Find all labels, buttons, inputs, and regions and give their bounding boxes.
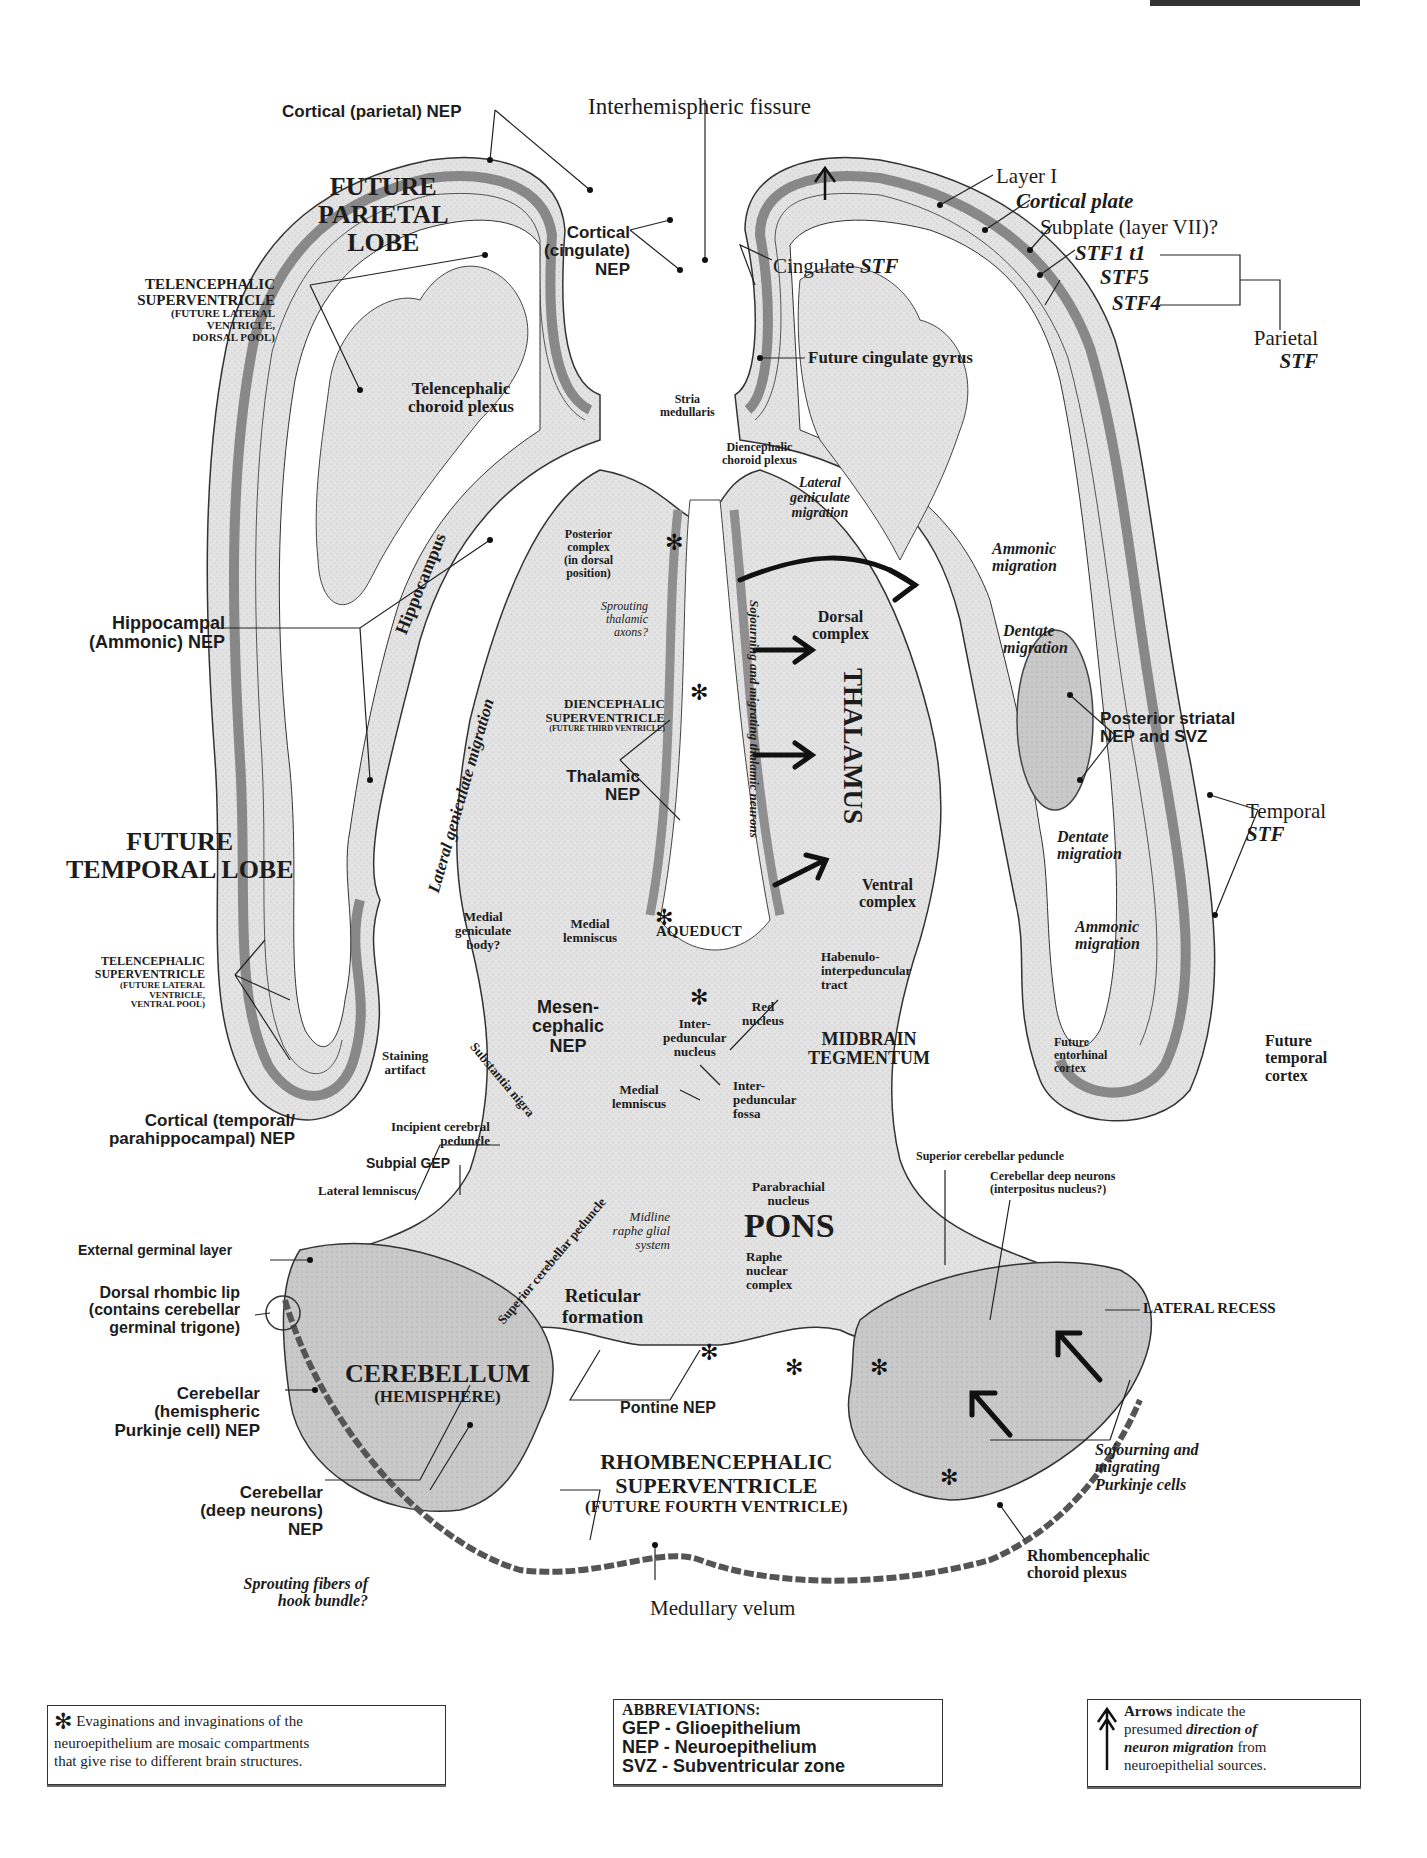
legend-arrows: Arrows indicate the presumed direction o… xyxy=(1087,1699,1361,1787)
label-future-temporal-lobe: FUTURE TEMPORAL LOBE xyxy=(66,828,294,884)
label-medial-geniculate-body: Medial geniculate body? xyxy=(455,910,511,952)
label-ammonic-migration-lower: Ammonic migration xyxy=(1075,918,1140,953)
label-sojourning-thalamic: Sojourning and migrating thalamic neuron… xyxy=(747,600,761,838)
label-dorsal-rhombic-lip: Dorsal rhombic lip (contains cerebellar … xyxy=(30,1284,240,1336)
label-staining-artifact: Staining artifact xyxy=(382,1049,428,1077)
label-telencephalic-choroid-plexus: Telencephalic choroid plexus xyxy=(408,380,514,417)
label-telencephalic-superventricle-ventral: TELENCEPHALIC SUPERVENTRICLE (FUTURE LAT… xyxy=(65,955,205,1010)
label-hippocampal-nep: Hippocampal (Ammonic) NEP xyxy=(60,614,225,653)
label-dentate-migration-lower: Dentate migration xyxy=(1057,828,1122,863)
asterisk-compartment-icon: ✻ xyxy=(54,1709,72,1734)
posterior-striatal-oval xyxy=(1017,630,1093,810)
label-ventral-complex: Ventral complex xyxy=(859,876,916,911)
label-future-cingulate-gyrus: Future cingulate gyrus xyxy=(808,349,973,367)
label-interpeduncular-nucleus: Inter- peduncular nucleus xyxy=(663,1017,727,1059)
label-cortical-temporal-nep: Cortical (temporal/ parahippocampal) NEP xyxy=(75,1112,295,1149)
label-sprouting-thalamic-axons: Sprouting thalamic axons? xyxy=(562,600,648,639)
label-pons: PONS xyxy=(744,1208,835,1245)
label-thalamic-nep: Thalamic NEP xyxy=(540,768,640,805)
label-sojourning-purkinje: Sojourning and migrating Purkinje cells xyxy=(1095,1441,1199,1493)
svg-text:✻: ✻ xyxy=(690,680,708,705)
label-stf5: STF5 xyxy=(1100,266,1149,289)
label-diencephalic-superventricle: DIENCEPHALIC SUPERVENTRICLE (FUTURE THIR… xyxy=(480,697,665,734)
migration-arrow-icon xyxy=(1096,1706,1118,1772)
label-cerebellar-purkinje-nep: Cerebellar (hemispheric Purkinje cell) N… xyxy=(60,1385,260,1440)
svg-text:✻: ✻ xyxy=(785,1355,803,1380)
label-medullary-velum: Medullary velum xyxy=(650,1597,795,1620)
label-aqueduct: AQUEDUCT xyxy=(656,923,742,939)
label-interpeduncular-fossa: Inter- peduncular fossa xyxy=(733,1079,797,1121)
label-posterior-complex: Posterior complex (in dorsal position) xyxy=(564,528,613,580)
label-future-entorhinal-cortex: Future entorhinal cortex xyxy=(1054,1036,1107,1075)
label-external-germinal-layer: External germinal layer xyxy=(78,1243,232,1258)
label-cerebellar-deep-neurons: Cerebellar deep neurons (interpositus nu… xyxy=(990,1170,1115,1196)
label-future-temporal-cortex: Future temporal cortex xyxy=(1265,1032,1327,1084)
svg-text:✻: ✻ xyxy=(940,1465,958,1490)
label-reticular-formation: Reticular formation xyxy=(562,1286,643,1327)
label-rhombencephalic-choroid-plexus: Rhombencephalic choroid plexus xyxy=(1027,1547,1150,1582)
label-temporal-stf: Temporal STF xyxy=(1246,800,1326,845)
label-midline-raphe: Midline raphe glial system xyxy=(590,1210,670,1252)
label-sprouting-hook-bundle: Sprouting fibers of hook bundle? xyxy=(190,1575,368,1610)
label-thalamus: THALAMUS xyxy=(838,668,867,824)
label-mesencephalic-nep: Mesen- cephalic NEP xyxy=(532,998,604,1056)
label-subpial-gep: Subpial GEP xyxy=(366,1156,450,1171)
legend-asterisk: ✻ Evaginations and invaginations of the … xyxy=(47,1705,446,1785)
label-subplate: Subplate (layer VII)? xyxy=(1040,216,1218,239)
label-parietal-stf: Parietal STF xyxy=(1220,327,1318,372)
label-cortical-cingulate-nep: Cortical (cingulate) NEP xyxy=(510,224,630,279)
legend-abbreviations: ABBREVIATIONS: GEP - Glioepithelium NEP … xyxy=(613,1699,943,1785)
label-lateral-lemniscus: Lateral lemniscus xyxy=(318,1184,417,1198)
label-stf1: STF1 t1 xyxy=(1075,242,1146,265)
label-raphe-nuclear-complex: Raphe nuclear complex xyxy=(746,1250,792,1292)
label-posterior-striatal: Posterior striatal NEP and SVZ xyxy=(1100,710,1235,747)
label-red-nucleus: Red nucleus xyxy=(742,1000,784,1028)
label-dorsal-complex: Dorsal complex xyxy=(812,608,869,643)
label-ammonic-migration-upper: Ammonic migration xyxy=(992,540,1057,575)
label-rhombencephalic-superventricle: RHOMBENCEPHALIC SUPERVENTRICLE (FUTURE F… xyxy=(585,1450,848,1516)
label-interhemispheric-fissure: Interhemispheric fissure xyxy=(588,95,811,120)
svg-text:✻: ✻ xyxy=(870,1355,888,1380)
svg-text:✻: ✻ xyxy=(700,1340,718,1365)
label-superior-cerebellar-peduncle-right: Superior cerebellar peduncle xyxy=(916,1150,1064,1163)
label-lateral-geniculate-migration: Lateral geniculate migration xyxy=(790,475,850,520)
label-pontine-nep: Pontine NEP xyxy=(620,1399,716,1416)
label-incipient-cerebral-peduncle: Incipient cerebral peduncle xyxy=(360,1120,490,1148)
label-medial-lemniscus-upper: Medial lemniscus xyxy=(563,917,617,945)
label-stf4: STF4 xyxy=(1112,292,1161,315)
label-cerebellum: CEREBELLUM (HEMISPHERE) xyxy=(345,1360,530,1406)
label-cingulate-stf: Cingulate STF xyxy=(773,255,898,278)
label-lateral-recess: LATERAL RECESS xyxy=(1143,1300,1276,1316)
label-telencephalic-superventricle-dorsal: TELENCEPHALIC SUPERVENTRICLE (FUTURE LAT… xyxy=(80,276,275,344)
label-future-parietal-lobe: FUTURE PARIETAL LOBE xyxy=(318,173,449,257)
svg-text:✻: ✻ xyxy=(690,985,708,1010)
label-cortical-parietal-nep: Cortical (parietal) NEP xyxy=(282,103,462,121)
svg-text:✻: ✻ xyxy=(665,530,683,555)
plate-title-fragment xyxy=(1150,0,1360,6)
label-midbrain-tegmentum: MIDBRAIN TEGMENTUM xyxy=(808,1030,930,1069)
label-layer-i: Layer I xyxy=(996,165,1057,188)
label-parabrachial-nucleus: Parabrachial nucleus xyxy=(752,1180,825,1208)
label-cortical-plate: Cortical plate xyxy=(1016,190,1133,213)
label-cerebellar-deep-nep: Cerebellar (deep neurons) NEP xyxy=(140,1484,323,1539)
label-medial-lemniscus-lower: Medial lemniscus xyxy=(612,1083,666,1111)
label-diencephalic-choroid-plexus: Diencephalic choroid plexus xyxy=(722,441,797,467)
label-dentate-migration-upper: Dentate migration xyxy=(1003,622,1068,657)
label-habenulo-tract: Habenulo- interpeduncular tract xyxy=(821,950,911,992)
label-stria-medullaris: Stria medullaris xyxy=(660,393,715,419)
